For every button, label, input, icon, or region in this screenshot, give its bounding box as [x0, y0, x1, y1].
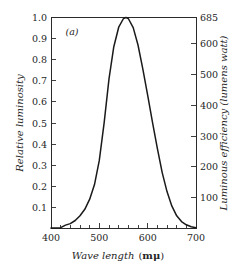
bottom-axis-minor-ticks [61, 225, 187, 229]
x-axis-title: Wave length(mμ) [72, 250, 164, 261]
right-tick-label-600: 600 [200, 38, 218, 49]
left-tick-label-0-1: 0.1 [32, 202, 47, 213]
x-tick-label-600: 600 [139, 232, 157, 243]
left-tick-label-0-4: 0.4 [32, 139, 47, 150]
plot-frame [51, 18, 196, 229]
luminosity-figure: 1.0 0.9 0.8 0.7 0.6 0.5 0.4 0.3 0.2 0.1 … [0, 0, 244, 272]
right-axis-ticks [191, 18, 196, 198]
right-axis-title: Luminous efficiency (lumens watt) [218, 35, 229, 211]
bottom-axis-major-ticks [51, 223, 196, 229]
x-axis-title-unit: mμ [142, 250, 160, 261]
x-tick-label-700: 700 [187, 232, 205, 243]
left-tick-label-0-7: 0.7 [32, 75, 47, 86]
x-axis-title-paren-close: ) [160, 250, 164, 261]
right-tick-label-685: 685 [200, 12, 218, 23]
left-tick-label-0-6: 0.6 [32, 96, 47, 107]
x-tick-label-500: 500 [90, 232, 108, 243]
left-tick-label-0-5: 0.5 [32, 118, 47, 129]
panel-label: (a) [65, 26, 78, 37]
left-axis-title: Relative luminosity [14, 74, 25, 173]
x-tick-label-400: 400 [42, 232, 60, 243]
left-tick-label-0-9: 0.9 [32, 33, 47, 44]
x-axis-title-main: Wave length [72, 250, 135, 261]
luminosity-chart-svg: 1.0 0.9 0.8 0.7 0.6 0.5 0.4 0.3 0.2 0.1 … [0, 0, 244, 272]
luminosity-curve [51, 18, 196, 229]
right-tick-label-200: 200 [200, 161, 218, 172]
left-axis-ticks [51, 18, 56, 208]
right-tick-label-500: 500 [200, 69, 218, 80]
left-tick-label-0-3: 0.3 [32, 160, 47, 171]
left-tick-label-1-0: 1.0 [32, 12, 47, 23]
left-tick-label-0-8: 0.8 [32, 54, 47, 65]
right-tick-label-100: 100 [200, 192, 218, 203]
right-tick-label-300: 300 [200, 131, 218, 142]
right-tick-label-400: 400 [200, 100, 218, 111]
left-tick-label-0-2: 0.2 [32, 181, 47, 192]
